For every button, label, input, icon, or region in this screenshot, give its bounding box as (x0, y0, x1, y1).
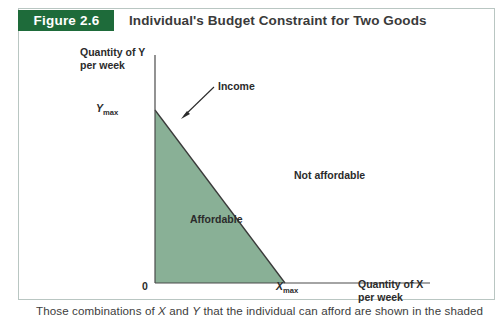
figure-caption: Those combinations of X and Y that the i… (36, 303, 488, 319)
caption-x-symbol: X (158, 304, 166, 317)
chart-plot-area: Quantity of Y per week Ymax Income Affor… (18, 32, 495, 300)
budget-constraint-chart (18, 32, 495, 300)
caption-part1: Those combinations of (36, 304, 158, 317)
figure-header: Figure 2.6 Individual's Budget Constrain… (18, 10, 427, 31)
affordable-region-label: Affordable (190, 213, 243, 226)
x-max-symbol: X (276, 280, 283, 292)
figure-title: Individual's Budget Constraint for Two G… (114, 10, 427, 31)
caption-y-symbol: Y (192, 304, 200, 317)
y-axis-title-line1: Quantity of Y (80, 46, 145, 58)
x-max-tick-label: Xmax (276, 280, 298, 293)
x-axis-title: Quantity of X per week (358, 278, 423, 304)
x-axis-title-line2: per week (358, 291, 403, 303)
caption-part2: and (166, 304, 192, 317)
y-max-subscript: max (103, 108, 118, 117)
y-max-symbol: Y (96, 102, 103, 114)
income-annotation-label: Income (218, 80, 255, 93)
y-axis-title-line2: per week (80, 59, 125, 71)
origin-tick-label: 0 (142, 280, 148, 293)
not-affordable-region-label: Not affordable (294, 169, 365, 182)
y-axis-title: Quantity of Y per week (80, 46, 145, 72)
y-max-tick-label: Ymax (96, 102, 118, 115)
caption-part3: that the individual can afford are shown… (200, 304, 483, 317)
x-axis-title-line1: Quantity of X (358, 278, 423, 290)
income-arrow-icon (181, 87, 214, 119)
figure-number-badge: Figure 2.6 (18, 10, 114, 31)
x-max-subscript: max (283, 286, 298, 295)
